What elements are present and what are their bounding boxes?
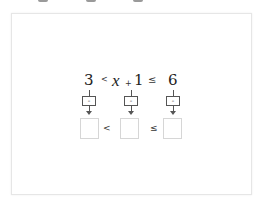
top-fragment xyxy=(38,0,48,2)
minus-icon: - xyxy=(88,97,91,105)
arrow-down-icon xyxy=(170,111,176,115)
left-value: 3 xyxy=(84,73,94,88)
minus-button-left[interactable]: - xyxy=(82,96,96,106)
arrow-down-icon xyxy=(86,111,92,115)
answer-less-equal-sign: ≤ xyxy=(150,124,158,133)
answer-box-right[interactable] xyxy=(163,118,182,139)
minus-button-middle[interactable]: - xyxy=(124,96,138,106)
arrow-down-icon xyxy=(128,111,134,115)
variable-x: x xyxy=(112,72,120,89)
minus-button-right[interactable]: - xyxy=(166,96,180,106)
less-than-sign: < xyxy=(101,76,108,84)
right-value: 6 xyxy=(168,73,178,88)
top-fragment xyxy=(133,0,143,2)
minus-icon: - xyxy=(172,97,175,105)
answer-less-than-sign: < xyxy=(103,124,111,133)
minus-icon: - xyxy=(130,97,133,105)
plus-sign: + xyxy=(125,80,132,88)
constant: 1 xyxy=(134,73,144,88)
answer-box-left[interactable] xyxy=(80,118,99,139)
top-fragment xyxy=(86,0,96,2)
less-equal-sign: ≤ xyxy=(148,75,156,85)
answer-box-middle[interactable] xyxy=(120,118,139,139)
